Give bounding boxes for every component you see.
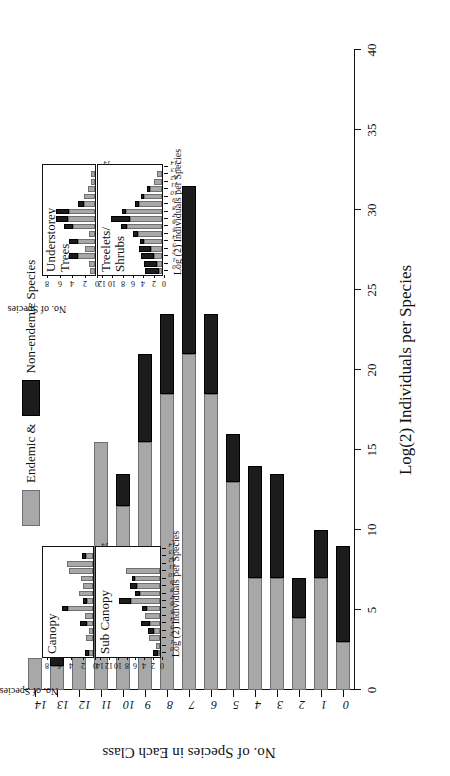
inset-bar-endemic xyxy=(157,261,162,267)
inset-understorey-trees: 0123456789101112131402468Understorey Tre… xyxy=(42,164,96,276)
bar-row xyxy=(204,50,219,690)
inset-bar-endemic xyxy=(144,194,162,200)
value-tick-label: 20 xyxy=(364,364,380,377)
inset-bar-endemic xyxy=(131,598,160,604)
inset-bar-endemic xyxy=(84,201,95,207)
inset-category-tick xyxy=(164,173,168,174)
inset-bar-endemic xyxy=(138,231,162,237)
value-tick xyxy=(354,209,361,210)
inset-bar-endemic xyxy=(126,209,162,215)
inset-bar-endemic xyxy=(78,254,95,260)
inset-category-tick xyxy=(162,585,166,586)
inset-category-tick xyxy=(164,181,168,182)
inset-value-label: 10 xyxy=(108,279,116,288)
inset-x-axis-title: Log (2) Individuals per Species xyxy=(172,149,183,275)
inset-category-tick xyxy=(164,226,168,227)
inset-category-tick xyxy=(162,555,166,556)
inset-bar-endemic xyxy=(149,636,160,642)
bar-segment-endemic xyxy=(292,618,307,690)
inset-bar-endemic xyxy=(154,628,160,634)
inset-value-label: 0 xyxy=(160,661,164,670)
inset-bar-endemic xyxy=(139,201,162,207)
bar-segment-endemic xyxy=(336,642,351,690)
legend-swatch-non-endemic xyxy=(22,380,40,416)
inset-bar-non-endemic xyxy=(141,621,150,627)
inset-category-tick xyxy=(162,637,166,638)
inset-category-tick xyxy=(164,211,168,212)
inset-bar-non-endemic xyxy=(119,598,131,604)
inset-bar-non-endemic xyxy=(78,201,84,207)
inset-value-label: 6 xyxy=(58,279,62,288)
inset-bar-non-endemic xyxy=(148,628,154,634)
inset-bar-non-endemic xyxy=(132,576,136,582)
inset-value-label: 8 xyxy=(45,279,49,288)
inset-value-label: 4 xyxy=(141,279,145,288)
inset-value-label: 12 xyxy=(105,661,113,670)
inset-value-label: 0 xyxy=(162,279,166,288)
bar-row xyxy=(336,50,351,690)
inset-bar-non-endemic xyxy=(62,606,67,612)
category-tick-label: 8 xyxy=(167,697,173,712)
bar-segment-non-endemic xyxy=(248,466,263,578)
category-tick-label: 5 xyxy=(233,697,239,712)
inset-category-tick xyxy=(164,188,168,189)
inset-value-label: 2 xyxy=(152,279,156,288)
inset-bar-endemic xyxy=(137,583,160,589)
bar-segment-non-endemic xyxy=(204,314,219,394)
inset-bar-non-endemic xyxy=(82,553,86,559)
inset-x-axis-title: Log (2) Individuals per Species xyxy=(170,531,181,657)
bar-segment-endemic xyxy=(204,394,219,690)
inset-bar-endemic xyxy=(144,239,162,245)
inset-category-tick xyxy=(162,600,166,601)
inset-category-tick xyxy=(162,630,166,631)
inset-value-label: 4 xyxy=(69,661,73,670)
inset-bar-non-endemic xyxy=(141,194,145,200)
bar-segment-endemic xyxy=(182,354,197,690)
value-tick xyxy=(354,49,361,50)
inset-category-tick xyxy=(162,623,166,624)
inset-value-label: 2 xyxy=(81,661,85,670)
inset-bar-endemic xyxy=(140,591,160,597)
inset-bar-endemic xyxy=(85,613,93,619)
inset-canopy: 0123456789101112131402468CanopyNo. of Sp… xyxy=(42,546,94,658)
inset-category-tick xyxy=(162,548,166,549)
inset-category-tick xyxy=(162,593,166,594)
inset-bar-endemic xyxy=(158,650,160,656)
category-tick-label: 6 xyxy=(211,697,217,712)
category-tick-label: 13 xyxy=(57,697,69,712)
inset-bar-endemic xyxy=(156,643,160,649)
inset-bar-non-endemic xyxy=(140,239,144,245)
category-tick-label: 7 xyxy=(189,697,195,712)
inset-category-tick xyxy=(162,615,166,616)
bar-segment-non-endemic xyxy=(270,474,285,578)
bar-segment-non-endemic xyxy=(336,546,351,642)
inset-value-label: 2 xyxy=(151,661,155,670)
value-tick-label: 5 xyxy=(364,607,380,614)
bar-segment-endemic xyxy=(270,578,285,690)
bar-row xyxy=(314,50,329,690)
inset-bar-endemic xyxy=(157,171,162,177)
rotated-page-wrapper: 051015202530354001234567891011121314 No.… xyxy=(0,0,450,776)
bar-segment-non-endemic xyxy=(138,354,153,442)
inset-bar-endemic xyxy=(69,209,95,215)
inset-bar-endemic xyxy=(154,179,162,185)
inset-bar-endemic xyxy=(89,650,93,656)
inset-bar-non-endemic xyxy=(153,650,158,656)
inset-bar-non-endemic xyxy=(135,591,140,597)
value-tick xyxy=(354,529,361,530)
inset-bar-endemic xyxy=(145,613,160,619)
inset-bar-non-endemic xyxy=(111,216,130,222)
inset-bar-endemic xyxy=(159,268,162,274)
inset-bar-endemic xyxy=(81,576,93,582)
inset-category-tick xyxy=(162,645,166,646)
main-x-axis-title: Log(2) Individuals per Species xyxy=(396,265,416,475)
figure-canvas: 051015202530354001234567891011121314 No.… xyxy=(0,0,450,776)
inset-value-label: 8 xyxy=(45,661,49,670)
inset-bar-non-endemic xyxy=(147,186,150,192)
inset-y-axis-title: No. of Species xyxy=(0,686,58,697)
inset-category-tick xyxy=(162,570,166,571)
inset-bar-endemic xyxy=(84,194,95,200)
inset-bar-endemic xyxy=(83,583,93,589)
value-tick-label: 40 xyxy=(364,44,380,57)
inset-bar-endemic xyxy=(78,239,96,245)
